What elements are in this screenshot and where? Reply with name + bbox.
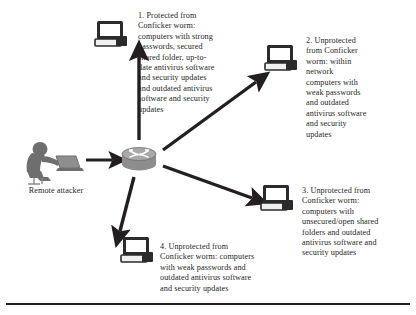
caption-node-2: 2. Unprotected from Conficker worm: with… [306, 36, 368, 140]
caption-node-1: 1. Protected from Conficker worm: comput… [138, 11, 220, 115]
person-at-laptop-icon [18, 140, 94, 186]
caption-node-4: 4. Unprotected from Conficker worm: comp… [160, 242, 258, 294]
desktop-computer-icon [92, 20, 130, 50]
attacker-label: Remote attacker [16, 186, 96, 196]
diagram-canvas: Remote attacker 1. Protected from Confic… [0, 0, 416, 315]
desktop-computer-icon [258, 184, 296, 214]
arrow-router-to-node-3 [163, 166, 252, 198]
caption-node-3: 3. Unprotected from Conficker worm: comp… [302, 186, 386, 259]
router-icon [116, 143, 162, 175]
desktop-computer-icon [262, 44, 300, 74]
desktop-computer-icon [118, 236, 156, 266]
figure-bottom-rule [6, 303, 410, 305]
arrow-router-to-node-4 [120, 177, 134, 231]
